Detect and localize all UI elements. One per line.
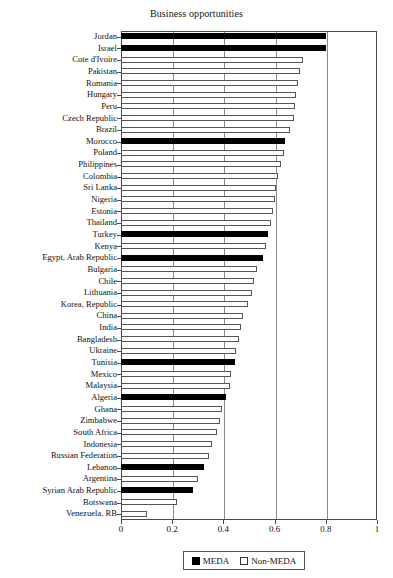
bar-czech-republic[interactable] [121,115,294,121]
y-axis-label: Egypt, Arab Republic [0,252,117,264]
y-axis-label: China [0,310,117,322]
chart-row [121,485,377,497]
chart-row [121,66,377,78]
bar-ghana[interactable] [121,406,222,412]
bar-chile[interactable] [121,278,254,284]
chart-row [121,78,377,90]
bar-peru[interactable] [121,103,295,109]
chart-row [121,101,377,113]
chart-row [121,194,377,206]
bar-mexico[interactable] [121,371,231,377]
y-axis-label: Hungary [0,89,117,101]
chart-row [121,252,377,264]
chart-legend: MEDA Non-MEDA [183,551,305,570]
x-axis-tick-label: 0.8 [320,524,331,534]
bar-lithuania[interactable] [121,290,252,296]
chart-row [121,276,377,288]
bar-south-africa[interactable] [121,429,217,435]
bar-israel[interactable] [121,45,326,51]
bar-zimbabwe[interactable] [121,418,220,424]
y-axis-label: Kenya [0,241,117,253]
bar-bulgaria[interactable] [121,266,257,272]
bar-thailand[interactable] [121,220,271,226]
y-axis-label: Lebanon [0,462,117,474]
x-axis-tick-label: 0 [119,524,124,534]
bar-lebanon[interactable] [121,464,204,470]
bar-argentina[interactable] [121,476,198,482]
y-axis-label: Estonia [0,206,117,218]
x-axis-tick-label: 0.4 [218,524,229,534]
bar-china[interactable] [121,313,243,319]
bar-syrian-arab-republic[interactable] [121,487,193,493]
bar-malaysia[interactable] [121,383,230,389]
chart-row [121,450,377,462]
bar-venezuela-rb[interactable] [121,511,147,517]
y-axis-label: Tunisia [0,357,117,369]
chart-row [121,497,377,509]
bar-bangladesh[interactable] [121,336,239,342]
y-axis-label: Philippines [0,159,117,171]
chart-row [121,182,377,194]
chart-row [121,392,377,404]
y-axis-label: Czech Republic [0,113,117,125]
chart-row [121,462,377,474]
chart-row [121,171,377,183]
bar-russian-federation[interactable] [121,453,209,459]
bar-jordan[interactable] [121,33,326,39]
bar-egypt-arab-republic[interactable] [121,255,263,261]
chart-row [121,345,377,357]
bar-pakistan[interactable] [121,68,300,74]
bar-philippines[interactable] [121,161,281,167]
chart-row [121,473,377,485]
chart-row [121,241,377,253]
y-axis-label: Botswana [0,497,117,509]
y-axis-label: Cote d'Ivoire [0,54,117,66]
chart-row [121,89,377,101]
chart-row [121,31,377,43]
y-axis-label: Syrian Arab Republic [0,485,117,497]
bar-hungary[interactable] [121,92,296,98]
legend-entry-meda: MEDA [192,556,230,566]
y-axis-label: Zimbabwe [0,415,117,427]
bar-estonia[interactable] [121,208,273,214]
x-axis-tick-label: 0.6 [269,524,280,534]
chart-row [121,427,377,439]
x-axis-ticks: 00.20.40.60.81 [121,520,377,536]
bar-nigeria[interactable] [121,196,275,202]
x-axis-tick-label: 0.2 [167,524,178,534]
bar-algeria[interactable] [121,394,226,400]
chart-row [121,217,377,229]
bar-turkey[interactable] [121,231,268,237]
bar-indonesia[interactable] [121,441,212,447]
bar-tunisia[interactable] [121,359,235,365]
y-axis-label: Venezuela, RB [0,508,117,520]
y-axis-category-labels: JordanIsraelCote d'IvoirePakistanRomania… [0,31,117,520]
y-axis-label: Jordan [0,31,117,43]
bar-kenya[interactable] [121,243,266,249]
bar-morocco[interactable] [121,138,285,144]
y-axis-label: Mexico [0,369,117,381]
bar-romania[interactable] [121,80,298,86]
chart-row [121,508,377,520]
bar-botswana[interactable] [121,499,177,505]
chart-row [121,229,377,241]
bar-ukraine[interactable] [121,348,236,354]
chart-row [121,369,377,381]
bars-layer [121,31,377,520]
y-axis-label: Pakistan [0,66,117,78]
y-axis-label: Indonesia [0,439,117,451]
y-axis-label: South Africa [0,427,117,439]
bar-colombia[interactable] [121,173,278,179]
bar-cote-d-ivoire[interactable] [121,57,303,63]
chart-row [121,264,377,276]
y-axis-label: Morocco [0,136,117,148]
bar-korea-republic[interactable] [121,301,248,307]
y-axis-label: Malaysia [0,380,117,392]
bar-india[interactable] [121,324,241,330]
bar-brazil[interactable] [121,127,290,133]
bar-poland[interactable] [121,150,284,156]
y-axis-label: Israel [0,43,117,55]
bar-sri-lanka[interactable] [121,185,276,191]
legend-swatch-meda-icon [192,557,200,565]
y-axis-label: Peru [0,101,117,113]
